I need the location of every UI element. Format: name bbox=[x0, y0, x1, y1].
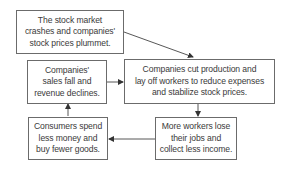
node-text-line: buy fewer goods. bbox=[34, 144, 102, 156]
arrow-n1-to-n3 bbox=[124, 32, 193, 57]
node-sales-fall: Companies' sales fall and revenue declin… bbox=[27, 60, 107, 104]
node-text-line: Consumers spend bbox=[34, 121, 102, 133]
node-stock-market-crash: The stock market crashes and companies' … bbox=[16, 10, 124, 54]
node-text-line: The stock market bbox=[25, 15, 115, 27]
node-text-line: sales fall and bbox=[34, 76, 100, 88]
node-cut-production: Companies cut production and lay off wor… bbox=[124, 59, 275, 104]
node-text-line: stock prices plummet. bbox=[25, 38, 115, 50]
node-workers-lose-jobs: More workers lose their jobs and collect… bbox=[155, 117, 237, 160]
economic-cycle-diagram: The stock market crashes and companies' … bbox=[0, 0, 287, 173]
node-text-line: revenue declines. bbox=[34, 88, 100, 100]
node-text-line: crashes and companies' bbox=[25, 26, 115, 38]
node-text-line: lay off workers to reduce expenses bbox=[135, 76, 264, 88]
node-text-line: and stabilize stock prices. bbox=[135, 87, 264, 99]
node-text-line: collect less income. bbox=[160, 144, 233, 156]
node-text-line: their jobs and bbox=[160, 133, 233, 145]
node-consumers-spend-less: Consumers spend less money and buy fewer… bbox=[28, 117, 108, 160]
node-text-line: Companies' bbox=[34, 65, 100, 77]
node-text-line: More workers lose bbox=[160, 121, 233, 133]
node-text-line: Companies cut production and bbox=[135, 64, 264, 76]
node-text-line: less money and bbox=[34, 133, 102, 145]
